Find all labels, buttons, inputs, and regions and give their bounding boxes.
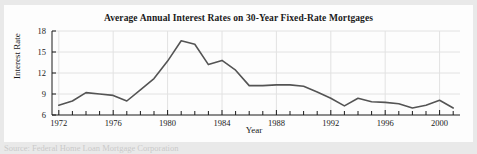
y-tick-label: 15	[30, 47, 46, 57]
gridlines	[52, 31, 460, 115]
x-tick-label: 1980	[151, 118, 185, 128]
x-tick-label: 2000	[423, 118, 457, 128]
figure-container: Average Annual Interest Rates on 30-Year…	[0, 0, 477, 154]
x-tick-label: 1984	[205, 118, 239, 128]
source-note: Source: Federal Home Loan Mortgage Corpo…	[4, 143, 473, 154]
y-tick-label: 12	[30, 68, 46, 78]
y-tick-label: 18	[30, 26, 46, 36]
x-tick-label: 1996	[368, 118, 402, 128]
x-tick-label: 1972	[42, 118, 76, 128]
x-tick-label: 1988	[259, 118, 293, 128]
x-tick-label: 1992	[314, 118, 348, 128]
interest-rate-line	[59, 41, 453, 108]
chart-panel: Average Annual Interest Rates on 30-Year…	[4, 5, 473, 142]
y-tick-label: 9	[30, 89, 46, 99]
x-tick-label: 1976	[96, 118, 130, 128]
